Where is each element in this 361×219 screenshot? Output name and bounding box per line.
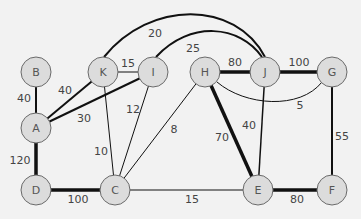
node-c: C: [100, 175, 130, 205]
edge-weight-a-i: 30: [77, 112, 91, 125]
edge-weight-g-f: 55: [335, 130, 349, 143]
edge-weight-k-c: 10: [94, 145, 108, 158]
edge-k-c: [103, 72, 115, 190]
node-label: D: [32, 184, 40, 197]
edge-weight-d-c: 100: [68, 193, 89, 206]
node-label: K: [99, 66, 107, 79]
node-label: G: [328, 66, 337, 79]
node-a: A: [21, 113, 51, 143]
edge-weight-a-d: 120: [10, 154, 31, 167]
node-label: E: [255, 184, 262, 197]
edge-j-e: [258, 72, 265, 190]
node-label: H: [201, 66, 209, 79]
node-h: H: [190, 57, 220, 87]
node-g: G: [317, 57, 347, 87]
node-i: I: [138, 57, 168, 87]
node-k: K: [88, 57, 118, 87]
node-label: C: [111, 184, 119, 197]
edge-weight-i-c: 12: [126, 103, 140, 116]
edge-weight-a-k: 40: [58, 84, 72, 97]
node-j: J: [250, 57, 280, 87]
node-label: A: [32, 122, 40, 135]
edge-weight-h-j: 80: [228, 56, 242, 69]
weighted-graph-diagram: 401201004030151012815801007040558020255 …: [0, 0, 361, 219]
edge-weight-h-g: 5: [297, 99, 304, 112]
edge-i-j: [156, 31, 262, 57]
edge-weight-e-f: 80: [290, 193, 304, 206]
edge-weight-h-e: 70: [215, 131, 229, 144]
edges-layer: [36, 14, 332, 190]
nodes-layer: BKIHJGADCEF: [21, 57, 347, 205]
node-f: F: [317, 175, 347, 205]
edge-weight-i-j: 25: [186, 42, 200, 55]
edge-weight-c-e: 15: [185, 193, 199, 206]
node-d: D: [21, 175, 51, 205]
graph-canvas: 401201004030151012815801007040558020255 …: [0, 0, 361, 219]
edge-weight-b-a: 40: [17, 92, 31, 105]
edge-weight-j-e: 40: [242, 119, 256, 132]
node-e: E: [243, 175, 273, 205]
node-label: B: [32, 66, 40, 79]
edge-weight-h-c: 8: [171, 123, 178, 136]
node-label: I: [151, 66, 154, 79]
node-label: J: [262, 66, 266, 79]
edge-weight-k-i: 15: [121, 57, 135, 70]
node-b: B: [21, 57, 51, 87]
node-label: F: [329, 184, 335, 197]
edge-weight-j-g: 100: [289, 56, 310, 69]
edge-i-c: [115, 72, 153, 190]
edge-weight-k-j: 20: [148, 27, 162, 40]
edge-h-c: [115, 72, 205, 190]
